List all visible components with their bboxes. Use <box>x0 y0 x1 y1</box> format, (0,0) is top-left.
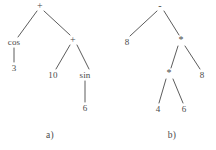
node-b-mul1: * <box>178 35 183 45</box>
expression-tree-b: - 8 * * 8 4 6 b) <box>0 0 216 150</box>
edge-b-mul2-6 <box>173 79 183 103</box>
node-b-8l: 8 <box>125 37 130 47</box>
edge-b-root-mul1 <box>164 11 179 35</box>
edge-b-mul1-mul2 <box>171 46 178 68</box>
node-b-4: 4 <box>156 104 161 114</box>
edge-b-root-8l <box>130 11 157 36</box>
expression-tree-figure: + cos 3 + 10 sin 6 a) - 8 * * 8 4 6 b) <box>0 0 216 150</box>
caption-b: b) <box>168 130 177 140</box>
node-b-8r: 8 <box>200 70 205 80</box>
edge-b-mul1-8r <box>185 46 200 69</box>
node-b-mul2: * <box>166 68 171 78</box>
node-b-root: - <box>158 1 162 11</box>
node-b-6: 6 <box>182 104 187 114</box>
edge-b-mul2-4 <box>159 79 166 103</box>
tree-b-edges <box>0 0 216 150</box>
